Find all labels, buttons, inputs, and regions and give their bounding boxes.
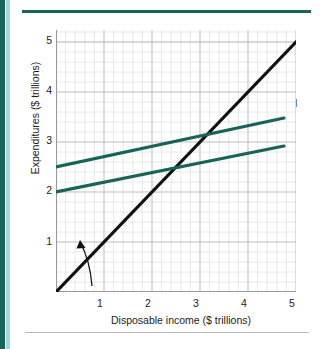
- y-axis-title: Expenditures ($ trillions): [29, 33, 41, 203]
- left-accent-bar-dark: [0, 0, 5, 349]
- x-tick-label-5: 5: [285, 297, 299, 309]
- bottom-rule: [25, 332, 309, 333]
- x-tick-label-1: 1: [93, 297, 107, 309]
- top-rule: [22, 10, 311, 13]
- x-tick-label-2: 2: [141, 297, 155, 309]
- y-tick-label-1: 1: [38, 235, 52, 247]
- chart-svg: [56, 30, 296, 292]
- x-axis-title: Disposable income ($ trillions): [56, 314, 306, 326]
- y-tick-label-2: 2: [38, 184, 52, 196]
- y-tick-label-3: 3: [38, 134, 52, 146]
- y-tick-label-5: 5: [38, 34, 52, 46]
- x-tick-label-4: 4: [237, 297, 251, 309]
- y-tick-label-4: 4: [38, 84, 52, 96]
- left-accent-bar-light: [6, 0, 10, 349]
- plot-area: [56, 30, 296, 292]
- x-tick-label-3: 3: [189, 297, 203, 309]
- figure-canvas: Expenditures ($ trillions) Disposable in…: [0, 0, 326, 349]
